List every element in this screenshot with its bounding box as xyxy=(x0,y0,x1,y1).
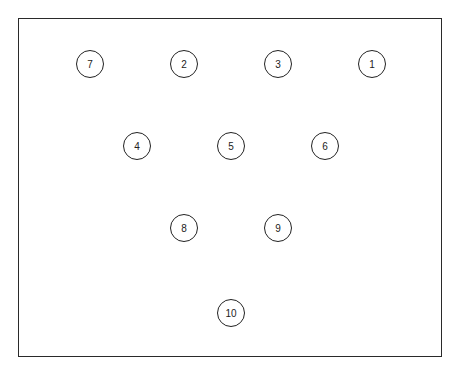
pin-circle: 9 xyxy=(264,214,292,242)
pin-circle: 8 xyxy=(170,214,198,242)
pin-circle: 3 xyxy=(264,50,292,78)
pin-circle: 10 xyxy=(217,299,245,327)
pin-circle: 6 xyxy=(311,132,339,160)
pin-circle: 1 xyxy=(358,50,386,78)
pin-circle: 2 xyxy=(170,50,198,78)
pin-circle: 5 xyxy=(217,132,245,160)
pin-circle: 4 xyxy=(123,132,151,160)
pin-circle: 7 xyxy=(76,50,104,78)
